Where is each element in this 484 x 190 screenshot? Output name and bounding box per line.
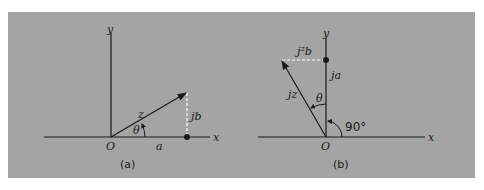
real-part-j2b-label: j²b (294, 45, 312, 58)
angle-90-label: 90° (345, 120, 366, 134)
x-axis-label: x (428, 131, 435, 144)
y-axis-label: y (106, 23, 114, 36)
panel-a: y x O z θ a jb (a) (44, 23, 220, 171)
origin-label: O (321, 140, 330, 153)
angle-theta-label: θ (133, 124, 140, 137)
imag-part-jb-label: jb (188, 110, 201, 123)
angle-90-arc (328, 121, 342, 137)
real-part-a-label: a (156, 140, 163, 153)
imag-part-ja-label: ja (328, 69, 341, 82)
caption-b: (b) (333, 158, 349, 171)
y-axis-label: y (322, 27, 330, 40)
vector-z (111, 93, 186, 137)
origin-label: O (106, 140, 115, 153)
panel-b: y x O ja j²b jz θ 90° (b) (258, 27, 435, 171)
point-marker (184, 134, 190, 140)
angle-arc (142, 124, 145, 137)
caption-a: (a) (120, 158, 135, 171)
vector-z-label: z (137, 108, 144, 121)
complex-plane-diagram: y x O z θ a jb (a) y x O ja j²b jz θ 90°… (0, 0, 484, 190)
point-marker (323, 57, 329, 63)
vector-jz-label: jz (285, 88, 297, 101)
x-axis-label: x (213, 131, 220, 144)
angle-theta-label: θ (316, 92, 323, 105)
